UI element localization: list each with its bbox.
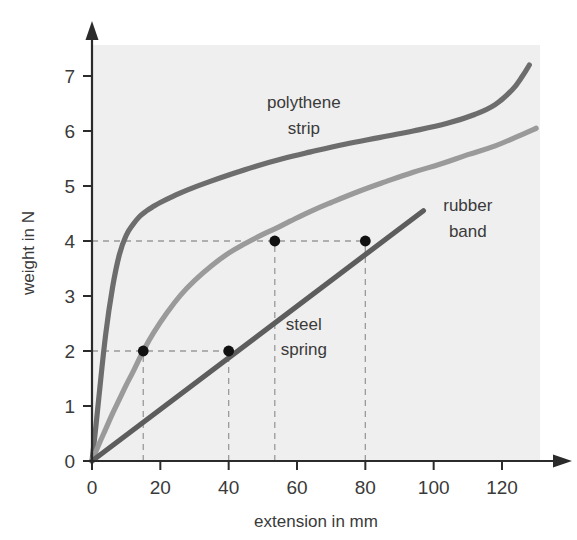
x-axis-tick-label: 20 [150,477,171,498]
y-axis-tick-label: 3 [64,286,75,307]
data-point-marker [138,346,149,357]
x-axis-tick-label: 0 [87,477,98,498]
x-axis-tick-labels: 020406080100120 [87,477,518,498]
x-axis-tick-label: 120 [486,477,518,498]
y-axis-tick-labels: 01234567 [64,66,75,472]
y-axis-tick-label: 1 [64,396,75,417]
y-axis-tick-label: 2 [64,341,75,362]
x-axis-ticks [92,461,502,470]
series-annotation-label: rubber [443,196,492,215]
y-axis-tick-label: 7 [64,66,75,87]
x-axis-tick-label: 40 [218,477,239,498]
y-axis-tick-label: 0 [64,451,75,472]
series-annotation-label: band [449,222,487,241]
y-axis-ticks [83,76,92,461]
series-annotation-label: spring [281,340,327,359]
chart-container: 01234567 020406080100120 weight in N ext… [0,0,577,540]
x-axis-title: extension in mm [254,512,378,531]
data-point-marker [269,236,280,247]
y-axis-tick-label: 6 [64,121,75,142]
x-axis-tick-label: 60 [286,477,307,498]
extension-weight-chart: 01234567 020406080100120 weight in N ext… [0,0,577,540]
series-annotation-label: strip [288,119,320,138]
series-annotation-label: steel [286,315,322,334]
data-point-marker [360,236,371,247]
y-axis-tick-label: 4 [64,231,75,252]
series-annotation-label: polythene [267,93,341,112]
x-axis-tick-label: 80 [355,477,376,498]
y-axis-title: weight in N [19,211,38,296]
data-point-marker [223,346,234,357]
y-axis-tick-label: 5 [64,176,75,197]
x-axis-tick-label: 100 [418,477,450,498]
